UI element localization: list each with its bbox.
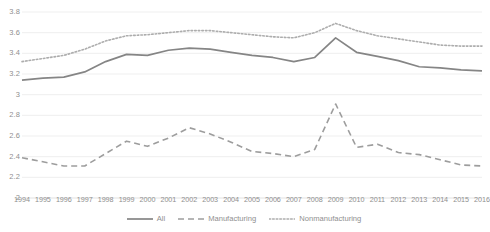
x-tick-label: 1995 (35, 196, 51, 204)
legend-swatch-manufacturing-icon (178, 215, 204, 223)
x-tick-label: 2006 (265, 196, 281, 204)
legend-item-manufacturing[interactable]: Manufacturing (178, 215, 256, 223)
y-tick-label: 3 (16, 91, 20, 99)
legend-label: All (157, 215, 165, 223)
x-tick-label: 1996 (56, 196, 72, 204)
x-tick-label: 2004 (223, 196, 239, 204)
x-axis: 1994199519961997199819992000200120022003… (22, 196, 482, 210)
y-tick-label: 2.6 (9, 132, 20, 140)
legend-item-nonmanufacturing[interactable]: Nonmanufacturing (269, 215, 361, 223)
legend-swatch-all-icon (127, 215, 153, 223)
x-tick-label: 1997 (77, 196, 93, 204)
y-tick-label: 3.4 (9, 50, 20, 58)
y-tick-label: 2.8 (9, 112, 20, 120)
y-tick-label: 2.2 (9, 174, 20, 182)
y-axis: 22.22.42.62.833.23.43.63.8 (0, 12, 22, 198)
x-tick-label: 2013 (411, 196, 427, 204)
x-tick-label: 2009 (328, 196, 344, 204)
x-tick-label: 2000 (140, 196, 156, 204)
x-tick-label: 2008 (307, 196, 323, 204)
x-tick-label: 2014 (432, 196, 448, 204)
x-tick-label: 2016 (474, 196, 490, 204)
x-tick-label: 2011 (370, 196, 385, 204)
chart-canvas (22, 12, 482, 198)
x-tick-label: 2007 (286, 196, 302, 204)
y-tick-label: 3.6 (9, 29, 20, 37)
x-tick-label: 2003 (202, 196, 218, 204)
x-tick-label: 1994 (14, 196, 30, 204)
y-tick-label: 3.2 (9, 70, 20, 78)
x-tick-label: 1998 (98, 196, 114, 204)
x-tick-label: 2010 (349, 196, 365, 204)
gridlines (22, 12, 482, 198)
legend-label: Nonmanufacturing (299, 215, 361, 223)
y-tick-label: 3.8 (9, 8, 20, 16)
x-tick-label: 2002 (181, 196, 197, 204)
plot-area (22, 12, 482, 198)
x-tick-label: 2015 (453, 196, 469, 204)
legend-label: Manufacturing (208, 215, 256, 223)
legend-swatch-nonmanufacturing-icon (269, 215, 295, 223)
y-tick-label: 2.4 (9, 153, 20, 161)
x-tick-label: 1999 (119, 196, 135, 204)
chart-legend: AllManufacturingNonmanufacturing (0, 210, 488, 228)
x-tick-label: 2001 (160, 196, 176, 204)
x-tick-label: 2012 (390, 196, 406, 204)
x-tick-label: 2005 (244, 196, 260, 204)
legend-item-all[interactable]: All (127, 215, 165, 223)
